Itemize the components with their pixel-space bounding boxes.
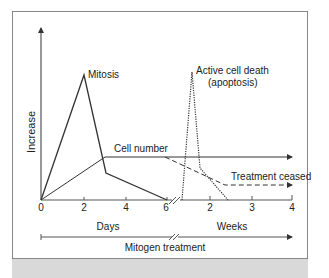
tick-day-2: 2: [81, 202, 87, 213]
cell-number-label: Cell number: [114, 143, 169, 154]
treatment-ceased-label: Treatment ceased: [231, 171, 311, 182]
apoptosis-label-line1: Active cell death: [196, 65, 269, 76]
y-axis-label: Increase: [25, 111, 37, 153]
mitosis-label: Mitosis: [88, 69, 119, 80]
tick-day-4: 4: [123, 202, 129, 213]
tick-week-3: 3: [249, 202, 255, 213]
figure-root: Increase 0 2 4 6 2 3 4 Mitosis: [0, 0, 329, 278]
treatment-label: Mitogen treatment: [125, 242, 206, 253]
mitosis-curve: [41, 75, 167, 200]
axis-break-mark: [173, 197, 180, 204]
weeks-label: Weeks: [217, 221, 247, 232]
apoptosis-curve: [182, 72, 228, 200]
tick-week-2: 2: [207, 202, 213, 213]
apoptosis-label-line2: (apoptosis): [208, 77, 257, 88]
tick-week-4: 4: [289, 202, 295, 213]
tick-day-6: 6: [163, 202, 169, 213]
days-label: Days: [97, 221, 120, 232]
tick-day-0: 0: [38, 202, 44, 213]
diagram-canvas: Increase 0 2 4 6 2 3 4 Mitosis: [0, 0, 329, 278]
